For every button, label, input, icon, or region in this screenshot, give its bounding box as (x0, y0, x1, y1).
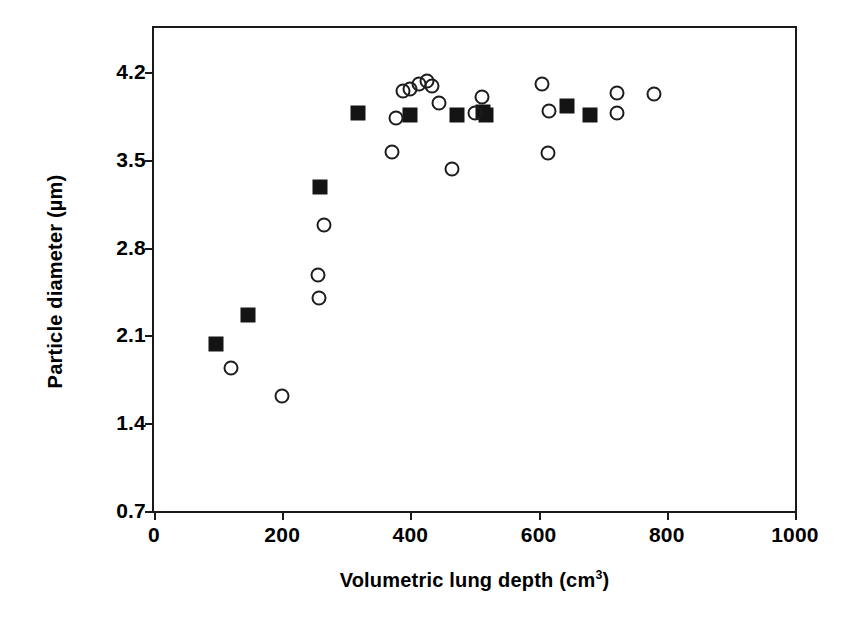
data-point-open-circle-5 (385, 145, 400, 160)
data-point-filled-square-6 (475, 105, 490, 120)
y-tick-label-4.2: 4.2 (116, 60, 146, 84)
data-point-open-circle-12 (431, 96, 446, 111)
x-tick-0 (154, 511, 156, 520)
data-point-open-circle-4 (316, 217, 331, 232)
y-tick-label-1.4: 1.4 (116, 411, 146, 435)
data-point-open-circle-21 (646, 87, 661, 102)
x-tick-400 (410, 511, 412, 520)
data-point-open-circle-15 (475, 90, 490, 105)
plot-area: 0.71.42.12.83.54.2 02004006008001000 (152, 26, 797, 513)
y-axis-title: Particle diameter (µm) (44, 0, 67, 592)
x-axis-title-tail: ) (602, 569, 609, 591)
y-tick-4.2 (145, 72, 154, 74)
x-axis-title: Volumetric lung depth (cm3) (152, 568, 797, 592)
data-point-open-circle-8 (402, 82, 417, 97)
data-point-open-circle-6 (388, 111, 403, 126)
y-tick-0.7 (145, 511, 154, 513)
data-point-open-circle-16 (534, 77, 549, 92)
y-tick-label-2.8: 2.8 (116, 236, 146, 260)
x-tick-200 (282, 511, 284, 520)
data-point-filled-square-3 (350, 106, 365, 121)
data-point-filled-square-4 (403, 107, 418, 122)
x-tick-800 (667, 511, 669, 520)
y-tick-2.1 (145, 335, 154, 337)
data-point-filled-square-1 (240, 308, 255, 323)
x-tick-label-0: 0 (148, 523, 160, 547)
x-tick-1000 (795, 511, 797, 520)
data-point-filled-square-5 (450, 107, 465, 122)
data-point-open-circle-13 (445, 161, 460, 176)
data-point-open-circle-1 (274, 388, 289, 403)
y-tick-1.4 (145, 423, 154, 425)
data-point-filled-square-8 (560, 98, 575, 113)
data-point-filled-square-7 (479, 107, 494, 122)
y-tick-2.8 (145, 248, 154, 250)
x-tick-label-400: 400 (393, 523, 429, 547)
x-tick-label-1000: 1000 (771, 523, 819, 547)
data-point-open-circle-2 (311, 268, 326, 283)
data-point-open-circle-9 (412, 77, 427, 92)
y-tick-3.5 (145, 160, 154, 162)
x-axis-title-text: Volumetric lung depth (cm (340, 569, 596, 591)
x-tick-label-200: 200 (264, 523, 300, 547)
data-point-open-circle-11 (424, 78, 439, 93)
x-tick-600 (539, 511, 541, 520)
data-point-filled-square-2 (313, 180, 328, 195)
x-tick-label-800: 800 (649, 523, 685, 547)
data-point-open-circle-3 (312, 290, 327, 305)
data-point-filled-square-9 (582, 107, 597, 122)
data-point-open-circle-19 (610, 86, 625, 101)
y-tick-label-0.7: 0.7 (116, 499, 146, 523)
data-point-open-circle-7 (396, 83, 411, 98)
x-tick-label-600: 600 (521, 523, 557, 547)
data-point-filled-square-0 (208, 337, 223, 352)
data-points-layer (154, 28, 795, 511)
chart-figure: 0.71.42.12.83.54.2 02004006008001000 Vol… (0, 0, 851, 619)
y-tick-label-3.5: 3.5 (116, 148, 146, 172)
data-point-open-circle-14 (467, 106, 482, 121)
data-point-open-circle-0 (223, 360, 238, 375)
data-point-open-circle-17 (542, 103, 557, 118)
data-point-open-circle-20 (610, 106, 625, 121)
data-point-open-circle-18 (540, 146, 555, 161)
data-point-open-circle-10 (420, 73, 435, 88)
y-tick-label-2.1: 2.1 (116, 323, 146, 347)
